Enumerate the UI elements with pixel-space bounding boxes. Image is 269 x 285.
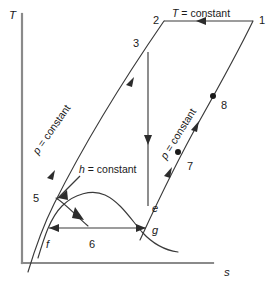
y-axis-label: T xyxy=(9,9,17,21)
state-label-e: e xyxy=(152,202,158,214)
isenthalpic-leader-arrow xyxy=(58,190,68,200)
ts-diagram-canvas: T s T = constant p = constant p = consta… xyxy=(0,0,269,285)
isobar-left-arrow-lower xyxy=(47,170,55,180)
isenthalp-label-rest: = constant xyxy=(85,163,137,175)
isobar-right-label-rest: = constant xyxy=(161,106,199,156)
isobar-right-arrow-upper xyxy=(191,121,199,132)
state-label-6: 6 xyxy=(89,238,95,250)
evaporation-line-group xyxy=(49,224,146,232)
x-axis-label: s xyxy=(224,266,230,278)
isobar-left-arrow-upper xyxy=(126,77,134,87)
state-label-f: f xyxy=(46,238,50,250)
isenthalp-label: h = constant xyxy=(79,163,137,175)
isotherm-label-rest: = constant xyxy=(178,7,230,19)
ts-diagram-figure: T s T = constant p = constant p = consta… xyxy=(0,0,269,285)
isotherm-label: T = constant xyxy=(172,7,230,19)
state-label-3: 3 xyxy=(133,37,139,49)
state-label-g: g xyxy=(152,224,159,236)
isobar-left-label-rest: = constant xyxy=(33,102,73,151)
process-3-e-arrow xyxy=(144,135,152,145)
state-label-7: 7 xyxy=(187,160,193,172)
isobar-left-label: p = constant xyxy=(29,102,72,157)
state-label-2: 2 xyxy=(153,14,159,26)
state-dot-8 xyxy=(210,93,216,99)
state-label-5: 5 xyxy=(33,192,39,204)
isenthalpic-5-6-arrow xyxy=(72,207,84,220)
isenthalpic-5-6-line xyxy=(56,198,88,226)
state-dot-7 xyxy=(175,149,181,155)
state-label-8: 8 xyxy=(221,99,227,111)
evaporation-arrow-left xyxy=(49,224,59,232)
process-3-e-group xyxy=(144,52,152,206)
isenthalpic-5-6-group xyxy=(56,176,88,226)
state-label-1: 1 xyxy=(259,14,265,26)
